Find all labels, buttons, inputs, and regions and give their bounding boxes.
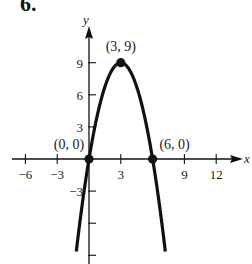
point-label: (6, 0) — [159, 137, 190, 153]
y-tick-label: 6 — [77, 88, 84, 103]
x-axis-label: x — [243, 151, 250, 166]
point-marker — [116, 58, 125, 67]
point-marker — [84, 154, 93, 163]
x-tick-label: 3 — [118, 167, 125, 182]
y-tick-label: 9 — [77, 56, 84, 71]
y-tick-label: 3 — [77, 120, 84, 135]
point-label: (3, 9) — [106, 39, 137, 55]
point-label: (0, 0) — [54, 137, 85, 153]
x-tick-label: 12 — [210, 167, 223, 182]
parabola-chart: xy−6−33912963−3 (3, 9)(0, 0)(6, 0) — [0, 0, 252, 264]
point-marker — [148, 154, 157, 163]
labeled-points: (3, 9)(0, 0)(6, 0) — [54, 39, 190, 164]
x-tick-label: −3 — [50, 167, 64, 182]
y-axis-label: y — [81, 12, 89, 27]
x-tick-label: 9 — [181, 167, 188, 182]
y-tick-label: −3 — [69, 184, 83, 199]
x-tick-label: −6 — [18, 167, 32, 182]
